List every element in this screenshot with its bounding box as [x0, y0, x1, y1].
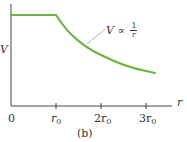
- x-tick-label-0: 0: [8, 113, 15, 124]
- x-tick-label-2r0: 2r0: [94, 113, 111, 126]
- x-axis-label: r: [177, 97, 182, 108]
- tick-3r0-sub: 0: [151, 117, 156, 126]
- x-tick-label-r0: r0: [51, 113, 61, 126]
- annotation-fraction: 1 r: [130, 22, 137, 39]
- figure-caption: (b): [77, 128, 93, 139]
- tick-r0-sub: 0: [56, 117, 61, 126]
- annotation-lhs: V ∝: [106, 24, 125, 37]
- tick-2r0-sub: 0: [106, 117, 111, 126]
- tick-3r0-main: 3r: [139, 112, 151, 125]
- annotation-label: V ∝ 1 r: [106, 22, 137, 39]
- tick-2r0-main: 2r: [94, 112, 106, 125]
- x-tick-label-3r0: 3r0: [139, 113, 156, 126]
- annotation-leader: [87, 29, 105, 44]
- y-axis-label: V: [0, 44, 8, 55]
- annotation-denominator: r: [130, 31, 137, 39]
